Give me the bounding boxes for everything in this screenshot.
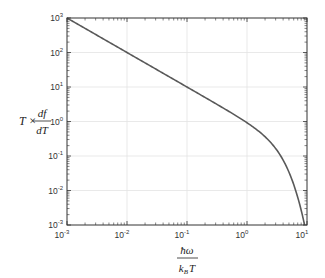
x-label-denominator: kBT [179,262,196,276]
x-tick-label: 10-2 [115,229,130,240]
x-tick-labels: 10-310-210-1100101 [55,229,309,240]
grid-lines [67,18,307,225]
y-tick-label: 10-1 [48,150,63,161]
y-tick-label: 100 [50,116,63,127]
y-tick-label: 10-3 [48,219,63,230]
y-tick-label: 10-2 [48,185,63,196]
x-tick-label: 100 [236,229,249,240]
x-tick-label: 10-1 [175,229,190,240]
y-axis-label: T × df dT [19,107,51,136]
x-axis-label: ħω kBT [177,244,198,276]
x-tick-label: 10-3 [55,229,70,240]
y-label-denominator: dT [36,124,49,136]
y-tick-label: 102 [50,47,63,58]
x-tick-label: 101 [296,229,309,240]
y-label-numerator: df [38,107,49,119]
y-tick-label: 101 [50,81,63,92]
chart: 10-310-210-1100101 10310210110010-110-21… [0,0,325,278]
x-label-numerator: ħω [180,244,194,256]
y-tick-label: 103 [50,12,63,23]
